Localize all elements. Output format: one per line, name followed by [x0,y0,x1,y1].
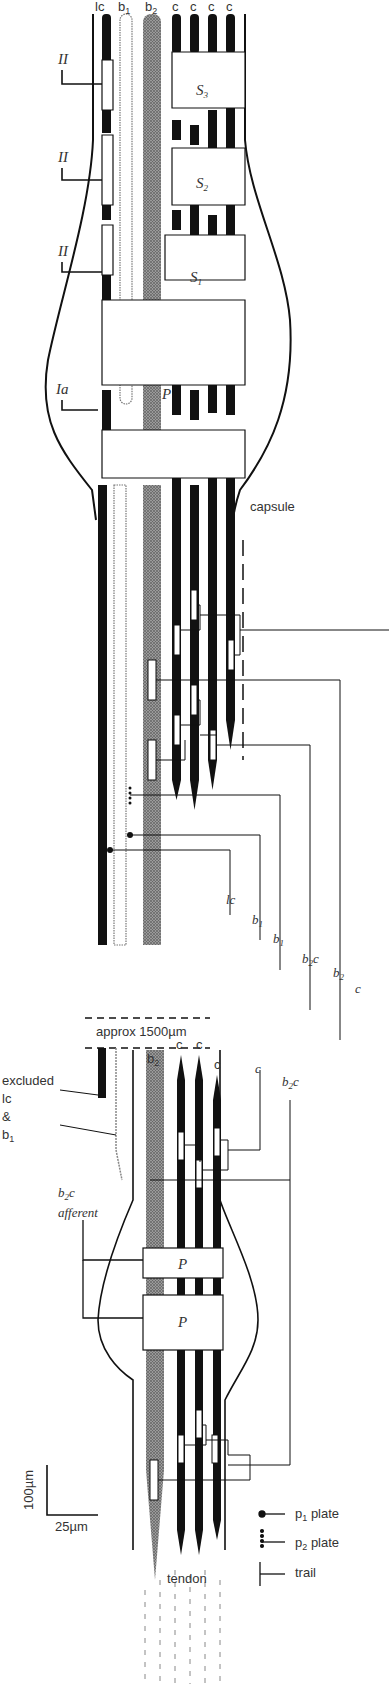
scale-bar [47,1465,98,1515]
region-label-s1: S1 [190,270,202,287]
fibre-b2 [143,14,161,945]
afferent-leads [62,70,102,410]
region-label-s3: S3 [196,83,208,100]
lower-label-c1: c [176,1038,183,1051]
lower-motor-label-c: c [255,1062,261,1075]
motor-label-b2c: b2c [302,952,319,968]
b2c-afferent-label: b2c afferent [58,1185,98,1221]
motor-label-b1-b: b1 [273,932,284,948]
fibre-label-lc: lc [95,0,104,13]
region-label-s2: S2 [196,176,208,193]
region-p-upper [102,300,245,385]
lower-label-c2: c [196,1038,203,1051]
excluded-lc-leader [60,1090,98,1095]
region-label-p: P [162,387,171,402]
b1-excluded [116,1048,122,1180]
lower-capsule-right [220,1050,258,1550]
afferent-label-II-s3: II [58,52,68,67]
tendon-label: tendon [167,1572,207,1585]
scale-vertical-label: 100µm [22,1470,35,1510]
fibre-label-b1: b1 [118,0,130,16]
afferent-label-II-s2: II [58,150,68,165]
fibre-label-c2: c [190,0,197,13]
b2c-afferent-leads [83,1220,143,1318]
excluded-b1-leader [60,1125,116,1135]
excluded-label: excluded lc & b1 [2,1072,54,1148]
scale-horizontal-label: 25µm [55,1520,88,1533]
legend-symbols [259,1511,285,1586]
lower-motor-label-b2c: b2c [282,1075,299,1091]
lower-region-p1: P [178,1257,187,1272]
region-s3 [102,60,113,110]
capsule-label: capsule [250,500,295,513]
legend-p2-plate: p2 plate [295,1536,339,1552]
motor-label-c: c [355,982,361,995]
afferent-label-Ia: Ia [56,382,69,397]
motor-label-b1-a: b1 [252,913,263,929]
lc-end [98,1048,106,1098]
motor-label-b2: b2 [333,966,344,982]
legend-p1-plate: p1 plate [295,1507,339,1523]
motor-label-lc: lc [226,893,235,906]
lower-label-c3: c [214,1058,221,1071]
fibre-label-c1: c [172,0,179,13]
break-distance-label: approx 1500µm [96,1025,187,1038]
fibre-label-b2: b2 [145,0,157,16]
fibre-b1 [114,14,132,945]
afferent-label-II-s1: II [58,244,68,259]
lower-region-p2: P [178,1315,187,1330]
lower-label-b2: b2 [147,1052,159,1068]
capsule-outline-left [46,14,96,520]
fibres-c [172,14,235,810]
legend-trail: trail [295,1566,316,1579]
fibre-label-c3: c [208,0,215,13]
tendon-fibrils [145,1570,220,1684]
fibre-label-c4: c [226,0,233,13]
